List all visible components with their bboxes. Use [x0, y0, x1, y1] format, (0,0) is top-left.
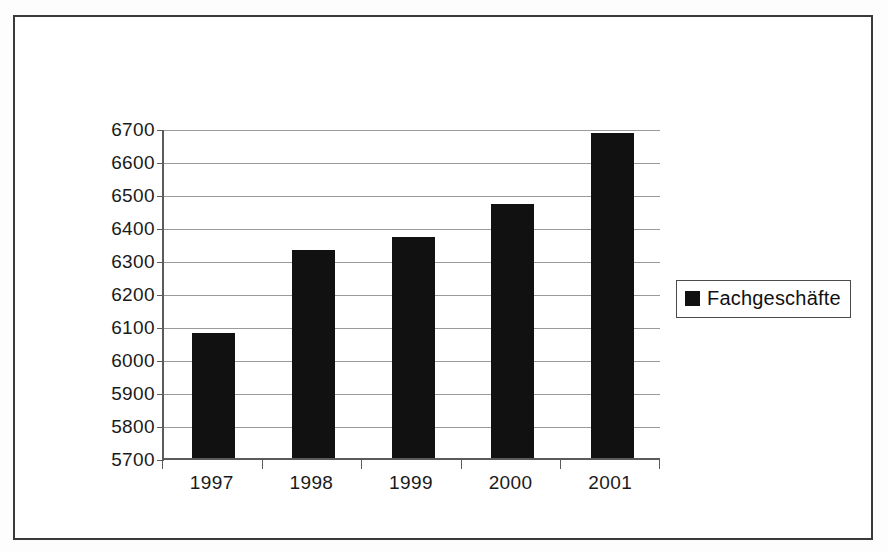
bar: [392, 237, 435, 458]
y-axis-tick: [157, 361, 164, 362]
x-axis-tick-label: 2001: [588, 472, 632, 494]
plot-area: [162, 130, 660, 460]
y-axis-tick: [157, 394, 164, 395]
y-axis-tick-label: 6600: [111, 152, 155, 174]
y-axis-tick-label: 6000: [111, 350, 155, 372]
square-marker-icon: [685, 291, 700, 306]
x-axis-ticks: [162, 460, 660, 470]
x-axis-tick: [659, 460, 660, 469]
y-axis-tick: [157, 262, 164, 263]
y-axis-tick: [157, 328, 164, 329]
y-axis-tick: [157, 163, 164, 164]
bar: [591, 133, 634, 458]
y-axis-tick: [157, 427, 164, 428]
chart-screenshot: 6700660065006400630062006100600059005800…: [0, 0, 888, 552]
y-axis-tick-label: 6400: [111, 218, 155, 240]
y-axis-tick-label: 6700: [111, 119, 155, 141]
y-axis-tick-label: 5800: [111, 416, 155, 438]
x-axis-tick: [461, 460, 462, 469]
y-axis-tick-label: 5900: [111, 383, 155, 405]
bar-series-fachgeschaefte: [164, 130, 660, 458]
bar: [491, 204, 534, 458]
x-axis-tick: [560, 460, 561, 469]
x-axis-tick-label: 2000: [489, 472, 533, 494]
x-axis-tick-label: 1998: [289, 472, 333, 494]
y-axis-tick: [157, 295, 164, 296]
x-axis-tick: [361, 460, 362, 469]
y-axis-tick-label: 6500: [111, 185, 155, 207]
y-axis-tick: [157, 229, 164, 230]
legend-label-fachgeschaefte: Fachgeschäfte: [707, 287, 841, 310]
y-axis-tick-label: 6300: [111, 251, 155, 273]
y-axis-labels: 6700660065006400630062006100600059005800…: [75, 130, 155, 460]
x-axis-labels: 19971998199920002001: [162, 472, 660, 502]
x-axis-tick: [162, 460, 163, 469]
y-axis-tick: [157, 196, 164, 197]
bar: [292, 250, 335, 458]
y-axis-tick: [157, 130, 164, 131]
figure-frame: 6700660065006400630062006100600059005800…: [13, 15, 873, 540]
x-axis-tick-label: 1999: [389, 472, 433, 494]
bar: [192, 333, 235, 458]
chart-legend: Fachgeschäfte: [676, 280, 851, 318]
y-axis-tick-label: 6200: [111, 284, 155, 306]
x-axis-tick-label: 1997: [190, 472, 234, 494]
y-axis-tick-label: 5700: [111, 449, 155, 471]
y-axis-tick-label: 6100: [111, 317, 155, 339]
x-axis-tick: [262, 460, 263, 469]
